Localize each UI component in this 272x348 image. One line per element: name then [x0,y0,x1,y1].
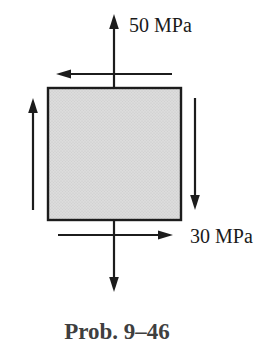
right-shear-arrow [190,98,200,210]
bottom-shear-arrow [58,230,173,239]
left-shear-arrow [28,98,38,210]
top-normal-stress-arrow [109,14,119,88]
shear-stress-label: 30 MPa [190,225,253,247]
stress-element-square [48,88,181,220]
figure-caption: Prob. 9–46 [64,319,170,344]
normal-stress-label: 50 MPa [129,14,192,36]
figure-canvas: 50 MPa 30 MPa Prob. 9–46 [0,0,272,348]
stress-element-figure: 50 MPa 30 MPa Prob. 9–46 [0,0,272,348]
bottom-normal-stress-arrow [109,220,119,292]
